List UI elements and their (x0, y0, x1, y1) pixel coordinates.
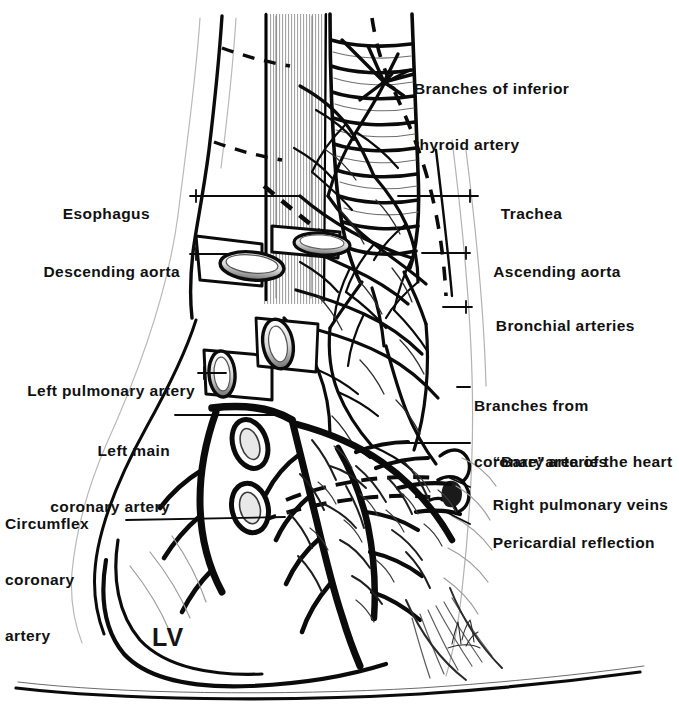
label-circumflex-line1: Circumflex (5, 515, 122, 534)
circumflex-coronary-artery (200, 412, 222, 592)
label-right-pulmonary-veins-text: Right pulmonary veins (493, 496, 668, 513)
label-circumflex-coronary-artery: Circumflex coronary artery (5, 478, 122, 683)
label-thyroid-line2: thyroid artery (414, 136, 569, 155)
label-branches-coronary-line1: Branches from (474, 397, 607, 416)
label-thyroid-line1: Branches of inferior (414, 80, 569, 99)
label-trachea-text: Trachea (501, 205, 562, 222)
label-circumflex-line3: artery (5, 627, 122, 646)
coronary-capillary-network (288, 440, 430, 604)
left-main-coronary-artery (212, 407, 292, 421)
pulmonary-trunk-stump (256, 317, 318, 372)
label-descending-aorta-text: Descending aorta (44, 263, 180, 280)
label-branches-inferior-thyroid-artery: Branches of inferior thyroid artery (414, 43, 569, 192)
label-esophagus: Esophagus (40, 186, 150, 243)
pericardial-fan-striations (412, 598, 492, 678)
label-left-pulmonary-artery-text: Left pulmonary artery (27, 382, 195, 399)
anatomical-figure: Esophagus Descending aorta Left pulmonar… (0, 0, 679, 717)
label-pericardial-reflection-text: Pericardial reflection (493, 534, 655, 551)
label-ascending-aorta: Ascending aorta (475, 244, 621, 301)
artist-signature (448, 620, 480, 648)
label-left-main-line1: Left main (5, 442, 170, 461)
label-bronchial-arteries: Bronchial arteries (477, 298, 635, 355)
ascending-aorta-stump (272, 226, 351, 258)
label-pericardial-reflection: Pericardial reflection (474, 515, 655, 572)
label-bare-area-text: “Bare”area of the heart (493, 453, 673, 470)
label-left-ventricle: LV (152, 623, 184, 652)
label-lv-text: LV (152, 623, 184, 651)
label-bronchial-arteries-text: Bronchial arteries (496, 317, 635, 334)
label-trachea: Trachea (482, 186, 562, 243)
label-ascending-aorta-text: Ascending aorta (493, 263, 620, 280)
heart-apex-contour (116, 540, 262, 674)
label-descending-aorta: Descending aorta (10, 244, 180, 301)
label-esophagus-text: Esophagus (63, 205, 150, 222)
label-circumflex-line2: coronary (5, 571, 122, 590)
